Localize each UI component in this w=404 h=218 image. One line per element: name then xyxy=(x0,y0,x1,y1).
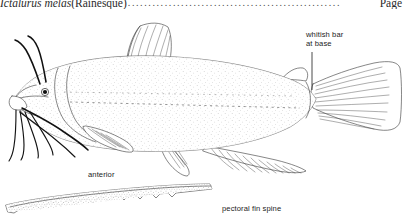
caudal-fin xyxy=(311,62,402,131)
label-anterior: anterior xyxy=(88,170,115,179)
pectoral-fin-spine-detail xyxy=(2,180,216,216)
label-whitish-bar: whitish bar at base xyxy=(306,30,343,49)
label-pectoral-fin-spine: pectoral fin spine xyxy=(222,204,281,213)
anal-fin xyxy=(203,146,306,173)
eye xyxy=(41,88,48,95)
label-whitish-bar-line2: at base xyxy=(306,39,343,48)
label-whitish-bar-line1: whitish bar xyxy=(306,30,343,39)
figure-plate: Ictalurus melas (Rainesque) ............… xyxy=(0,0,404,218)
